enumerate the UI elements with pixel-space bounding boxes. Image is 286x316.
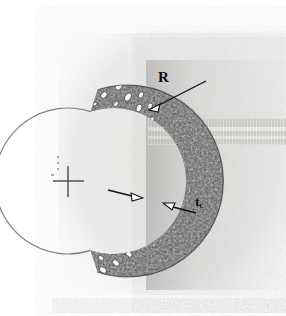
micrograph-image: R tc — [0, 0, 286, 316]
thickness-label-subscript: c — [199, 200, 203, 210]
bottom-scan-strip — [72, 300, 272, 311]
radius-label: R — [158, 70, 169, 85]
figure-panel: a) — [0, 0, 286, 316]
micrograph-svg — [0, 0, 286, 316]
thickness-label: tc — [195, 195, 203, 212]
